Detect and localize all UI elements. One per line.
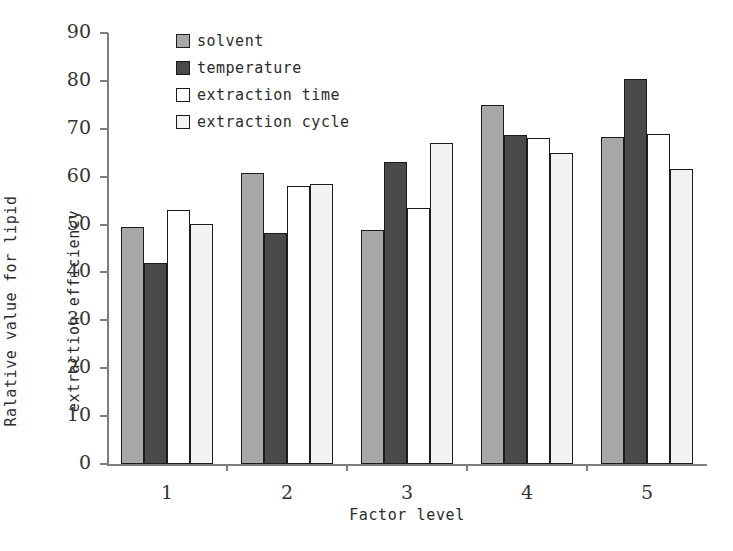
legend-item-label: extraction time	[197, 86, 340, 104]
legend-item: extraction cycle	[176, 111, 350, 133]
bar	[624, 79, 647, 465]
bar	[670, 169, 693, 464]
x-axis-tick	[346, 464, 348, 471]
y-axis-tick: 60	[100, 176, 108, 178]
y-axis-tick-label: 20	[51, 355, 91, 377]
y-axis-tick-label: 70	[51, 116, 91, 138]
x-axis-tick	[466, 464, 468, 471]
bar	[241, 173, 264, 464]
x-axis-tick	[226, 464, 228, 471]
x-axis-tick-label: 3	[377, 481, 437, 503]
legend-swatch-icon	[176, 61, 190, 75]
y-axis-tick: 40	[100, 271, 108, 273]
chart-legend: solventtemperatureextraction timeextract…	[176, 30, 350, 133]
y-axis-title-line-1: Ralative value for lipid	[1, 151, 22, 471]
y-axis-tick: 50	[100, 224, 108, 226]
legend-item-label: solvent	[197, 32, 264, 50]
bar	[601, 137, 624, 464]
y-axis-tick: 70	[100, 128, 108, 130]
legend-swatch-icon	[176, 34, 190, 48]
bar	[647, 134, 670, 464]
y-axis-tick-label: 80	[51, 68, 91, 90]
y-axis-line	[107, 33, 109, 466]
bar	[504, 135, 527, 464]
bar-chart-figure: Ralative value for lipid extraction effi…	[0, 0, 733, 551]
y-axis-tick-label: 10	[51, 403, 91, 425]
y-axis-tick-label: 60	[51, 164, 91, 186]
bar	[361, 230, 384, 464]
bar	[167, 210, 190, 464]
y-axis-tick: 20	[100, 367, 108, 369]
bar	[550, 153, 573, 464]
figure-caption	[0, 538, 733, 551]
x-axis-tick	[586, 464, 588, 471]
x-axis-line	[107, 464, 707, 466]
bar	[144, 263, 167, 464]
x-axis-tick-label: 2	[257, 481, 317, 503]
legend-item: solvent	[176, 30, 350, 52]
legend-item: temperature	[176, 57, 350, 79]
legend-item: extraction time	[176, 84, 350, 106]
legend-swatch-icon	[176, 115, 190, 129]
bar	[264, 233, 287, 464]
y-axis-tick-label: 40	[51, 259, 91, 281]
bar	[384, 162, 407, 464]
y-axis-tick: 80	[100, 80, 108, 82]
x-axis-title: Factor level	[107, 506, 707, 524]
bar	[190, 224, 213, 464]
x-axis-tick-label: 1	[137, 481, 197, 503]
bar	[430, 143, 453, 464]
x-axis-tick-label: 4	[497, 481, 557, 503]
y-axis-tick: 90	[100, 32, 108, 34]
bar	[481, 105, 504, 464]
y-axis-tick: 0	[100, 463, 108, 465]
bar	[310, 184, 333, 464]
bar	[287, 186, 310, 464]
x-axis-tick-label: 5	[617, 481, 677, 503]
y-axis-tick: 10	[100, 415, 108, 417]
legend-swatch-icon	[176, 88, 190, 102]
y-axis-tick: 30	[100, 319, 108, 321]
bar	[407, 208, 430, 464]
y-axis-tick-label: 0	[51, 451, 91, 473]
legend-item-label: temperature	[197, 59, 302, 77]
y-axis-tick-label: 90	[51, 20, 91, 42]
y-axis-tick-label: 50	[51, 212, 91, 234]
bar	[121, 227, 144, 464]
y-axis-tick-label: 30	[51, 307, 91, 329]
bar	[527, 138, 550, 464]
legend-item-label: extraction cycle	[197, 113, 350, 131]
